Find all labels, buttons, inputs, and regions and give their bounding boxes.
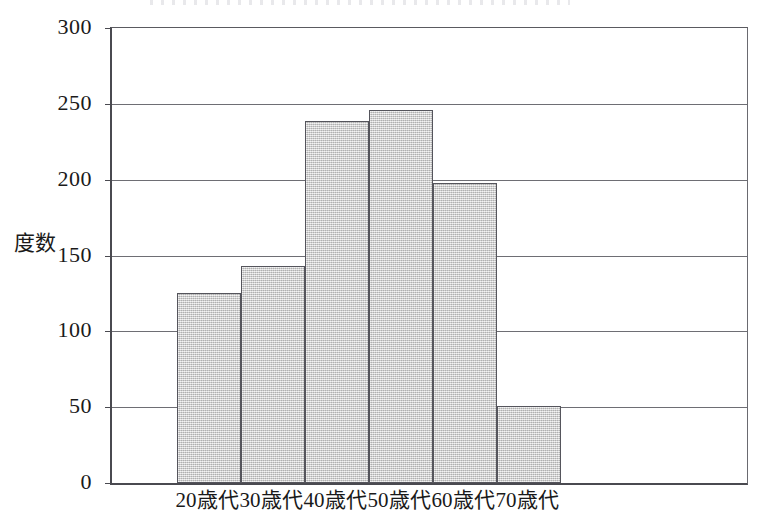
y-tick-label: 200 xyxy=(36,168,92,190)
bars-layer xyxy=(112,28,747,483)
bar xyxy=(305,121,369,483)
bar xyxy=(177,293,241,483)
y-tick-label: 300 xyxy=(36,16,92,38)
y-tick-mark xyxy=(105,180,112,181)
bar xyxy=(497,406,561,483)
y-tick-mark xyxy=(105,256,112,257)
y-tick-label: 150 xyxy=(36,244,92,266)
y-tick-mark xyxy=(105,483,112,484)
y-tick-mark xyxy=(105,28,112,29)
y-tick-label: 250 xyxy=(36,92,92,114)
y-tick-mark xyxy=(105,331,112,332)
y-tick-mark xyxy=(105,104,112,105)
plot-area xyxy=(110,27,748,485)
x-tick-label: 70歳代 xyxy=(483,487,571,513)
bar xyxy=(241,266,305,483)
frequency-bar-chart: 度数 300250200150100500 20歳代30歳代40歳代50歳代60… xyxy=(0,0,759,517)
y-tick-label: 0 xyxy=(36,471,92,493)
bar xyxy=(369,110,433,483)
scan-artifact xyxy=(150,0,570,5)
y-tick-label: 100 xyxy=(36,319,92,341)
bar xyxy=(433,183,497,483)
y-tick-label: 50 xyxy=(36,395,92,417)
y-tick-mark xyxy=(105,407,112,408)
